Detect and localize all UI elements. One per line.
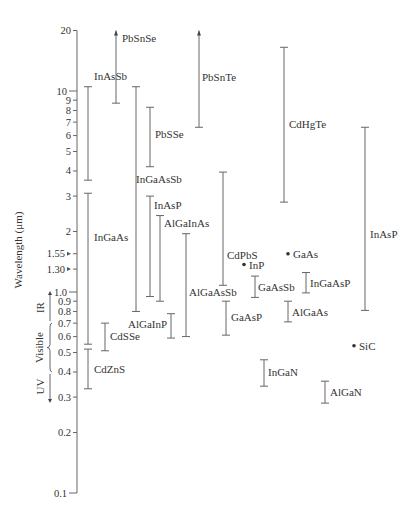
range-cdzns: CdZnS [84, 349, 125, 389]
range-gaasp: GaAsP [222, 301, 262, 335]
point-label: GaAs [293, 248, 318, 260]
range-label: AlGaInAs [164, 217, 209, 229]
point-label: SiC [359, 340, 376, 352]
tick-label: 8 [66, 105, 71, 116]
tick-label: 6 [66, 130, 71, 141]
y-axis-label: Wavelength (μm) [12, 211, 25, 288]
range-label: InAsSb [94, 70, 128, 82]
tick-arrow-icon [67, 267, 71, 271]
tick-label: 3 [66, 191, 71, 202]
tick-label: 0.3 [58, 392, 71, 403]
range-label: PbSnSe [122, 32, 156, 44]
range-label: GaAsSb [258, 281, 295, 293]
range-label: InGaAsP [310, 277, 350, 289]
brace-icon [47, 323, 52, 372]
tick-label: 1.55 [47, 248, 65, 259]
y-axis-title: Wavelength (μm) [12, 211, 25, 288]
tick-label: 7 [66, 117, 71, 128]
range-inassb: InAsSb [84, 70, 128, 180]
region-label-uv: UV [34, 379, 46, 395]
tick-label: 0.7 [58, 318, 71, 329]
point-marker [286, 252, 290, 256]
range-label: InGaAs [94, 231, 128, 243]
range-label: GaAsP [231, 311, 262, 323]
range-cdhgte: CdHgTe [280, 47, 326, 202]
range-gaassb: GaAsSb [251, 276, 295, 297]
range-label: AlGaN [330, 386, 362, 398]
material-points: InPGaAsSiC [242, 248, 375, 352]
tick-label: 0.4 [58, 366, 72, 377]
tick-label: 0.1 [54, 488, 67, 499]
range-label: AlGaAsSb [189, 286, 237, 298]
range-inasp: InAsP [361, 127, 398, 310]
tick-label: 0.6 [58, 331, 71, 342]
range-label: PbSnTe [202, 71, 236, 83]
range-label: AlGaAs [292, 306, 328, 318]
tick-label: 5 [66, 146, 71, 157]
tick-label: 2 [66, 226, 71, 237]
region-label-visible: Visible [33, 332, 45, 363]
range-ingaasp: InGaAsP [302, 273, 350, 293]
range-ingan: InGaN [260, 360, 298, 386]
material-ranges: InAsSbInGaAsCdZnSPbSnSeInGaAsSbPbSSeCdSS… [84, 30, 398, 403]
range-label: CdHgTe [289, 118, 326, 130]
point-marker [352, 344, 356, 348]
arrow-up-icon [197, 30, 201, 35]
range-pbsnte: PbSnTe [195, 30, 236, 127]
range-label: InGaAsSb [136, 173, 182, 185]
range-algan: AlGaN [321, 381, 362, 403]
range-label: CdSSe [110, 330, 140, 342]
range-label: InAsP [154, 199, 182, 211]
range-inasp: InAsP [146, 196, 182, 296]
arrow-up-icon [114, 30, 118, 35]
range-ingaas: InGaAs [84, 193, 128, 344]
range-label: PbSSe [155, 128, 184, 140]
range-label: InAsP [370, 228, 398, 240]
point-label: InP [249, 259, 264, 271]
range-algaas: AlGaAs [284, 301, 328, 322]
y-axis: 2010987654321.551.301.00.90.80.70.60.50.… [47, 25, 77, 499]
wavelength-range-chart: 2010987654321.551.301.00.90.80.70.60.50.… [0, 0, 417, 518]
range-label: AlGaInP [128, 318, 167, 330]
tick-label: 0.5 [58, 347, 71, 358]
point-marker [242, 263, 246, 267]
range-label: CdZnS [94, 363, 125, 375]
arrow-up-icon [48, 291, 52, 295]
tick-label: 0.2 [58, 427, 71, 438]
tick-label: 4 [66, 165, 72, 176]
tick-label: 0.8 [58, 306, 71, 317]
tick-label: 1.30 [47, 264, 65, 275]
range-pbsse: PbSSe [146, 107, 184, 166]
spectral-regions: IRVisibleUV [33, 291, 52, 403]
tick-arrow-icon [67, 252, 71, 256]
tick-label: 20 [61, 25, 72, 36]
range-label: InGaN [268, 366, 298, 378]
range-pbsnse: PbSnSe [112, 30, 156, 103]
region-label-ir: IR [34, 301, 46, 313]
arrow-down-icon [48, 399, 52, 403]
